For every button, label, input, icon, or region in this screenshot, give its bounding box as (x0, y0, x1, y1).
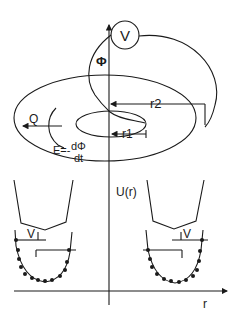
voltmeter-label: V (120, 27, 130, 44)
outer-ring (14, 75, 196, 161)
emf-arc-arrow (49, 108, 64, 148)
right-potential-curve (147, 180, 204, 229)
diagram-canvas: V Φ r2 r1 Q E=- dΦ dt U(r) r V V (0, 0, 240, 324)
radius-axis-label: r (203, 297, 207, 311)
inner-ring (76, 111, 146, 137)
emf-numerator-label: dΦ (71, 140, 86, 152)
flux-loop-wire (89, 35, 145, 123)
left-well-v-label: V (27, 227, 35, 241)
flux-label: Φ (96, 54, 107, 69)
right-well-dots (146, 238, 204, 284)
potential-axis-label: U(r) (116, 185, 137, 199)
charge-label: Q (29, 112, 38, 126)
emf-lhs-label: E=- (53, 144, 71, 156)
right-well-v-label: V (183, 227, 191, 241)
left-well-dots (14, 238, 71, 283)
r1-label: r1 (122, 127, 133, 141)
emf-denominator-label: dt (74, 152, 83, 164)
r2-label: r2 (150, 96, 162, 111)
left-potential-curve (14, 180, 73, 230)
